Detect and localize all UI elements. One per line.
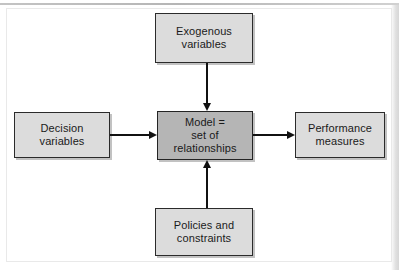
node-decision-variables: Decision variables [14, 112, 110, 158]
node-decision-variables-label: Decision variables [40, 122, 85, 148]
node-exogenous-variables-label: Exogenous variables [176, 25, 232, 51]
arrow-head-right-icon [287, 131, 295, 139]
node-performance-measures: Performance measures [295, 112, 385, 158]
arrow-head-up-icon [203, 160, 211, 168]
arrow-exogenous-to-model-icon [203, 63, 213, 111]
scan-top-rule [0, 3, 399, 5]
node-model-label: Model = set of relationships [173, 116, 236, 155]
node-performance-measures-label: Performance measures [308, 122, 372, 148]
arrow-shaft [110, 134, 150, 136]
node-model: Model = set of relationships [157, 111, 253, 160]
arrow-shaft [253, 134, 288, 136]
node-policies-and-constraints-label: Policies and constraints [174, 219, 235, 245]
arrow-head-down-icon [203, 103, 211, 111]
arrow-model-to-performance-icon [253, 130, 295, 140]
diagram-canvas: Exogenous variables Decision variables M… [0, 0, 399, 270]
node-exogenous-variables: Exogenous variables [155, 13, 253, 63]
arrow-policies-to-model-icon [203, 160, 213, 208]
arrow-head-right-icon [149, 131, 157, 139]
node-policies-and-constraints: Policies and constraints [155, 208, 253, 256]
scan-right-edge-shadow [391, 5, 399, 270]
arrow-decision-to-model-icon [110, 130, 157, 140]
arrow-shaft [206, 63, 208, 104]
arrow-shaft [206, 167, 208, 208]
